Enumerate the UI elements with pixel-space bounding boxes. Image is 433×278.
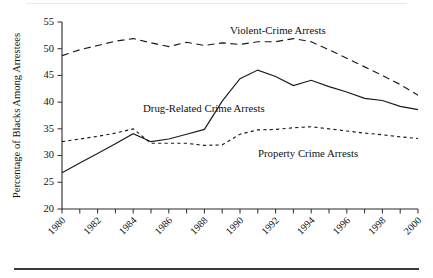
y-axis-tick-label: 25 [44, 176, 55, 187]
y-axis-tick-label: 50 [44, 43, 55, 54]
x-axis-tick-label: 1996 [330, 215, 352, 237]
x-axis-tick-label: 1982 [81, 215, 103, 237]
y-axis-title: Percentage of Blacks Among Arrestees [11, 33, 22, 198]
annotation-property-crime-arrests: Property Crime Arrests [258, 147, 358, 159]
x-axis-tick-label: 1992 [259, 215, 281, 237]
x-axis-tick-label: 2000 [401, 215, 423, 237]
annotation-violent-crime-arrests: Violent-Crime Arrests [230, 24, 326, 36]
x-axis-tick-label: 1998 [366, 215, 388, 237]
y-axis-tick-label: 30 [44, 149, 55, 160]
y-axis: 2025303540455055 [44, 16, 63, 214]
y-axis-tick-label: 55 [44, 16, 55, 27]
x-axis-tick-label: 1986 [152, 215, 174, 237]
x-axis: 1980198219841986198819901992199419961998… [45, 209, 423, 237]
x-axis-tick-label: 1994 [295, 215, 317, 237]
annotation-drug-related-crime-arrests: Drug-Related Crime Arrests [143, 102, 265, 114]
y-axis-tick-label: 35 [44, 123, 55, 134]
figure-chart-black-arrestee-percentages: 2025303540455055 19801982198419861988199… [0, 0, 433, 278]
x-axis-tick-label: 1980 [45, 215, 67, 237]
x-axis-tick-label: 1984 [117, 215, 139, 237]
x-axis-tick-label: 1988 [188, 215, 210, 237]
x-axis-tick-label: 1990 [223, 215, 245, 237]
figure-bottom-rule [14, 268, 419, 270]
y-axis-tick-label: 45 [44, 69, 55, 80]
y-axis-tick-label: 20 [44, 203, 55, 214]
chart-canvas: 2025303540455055 19801982198419861988199… [0, 0, 433, 278]
series-annotations: Violent-Crime ArrestsDrug-Related Crime … [143, 24, 358, 159]
series-line-violent-crime-arrests [62, 39, 418, 96]
y-axis-title-text: Percentage of Blacks Among Arrestees [11, 33, 22, 198]
y-axis-tick-label: 40 [44, 96, 55, 107]
series-line-property-crime-arrests [62, 127, 418, 146]
series-line-drug-related-crime-arrests [62, 70, 418, 173]
